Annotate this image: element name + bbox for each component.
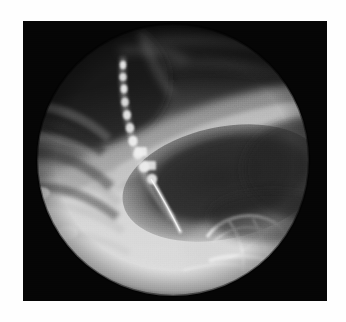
- page-root: [0, 0, 346, 322]
- radiograph-frame: [23, 21, 327, 301]
- fluoroscopic-image: [23, 21, 327, 301]
